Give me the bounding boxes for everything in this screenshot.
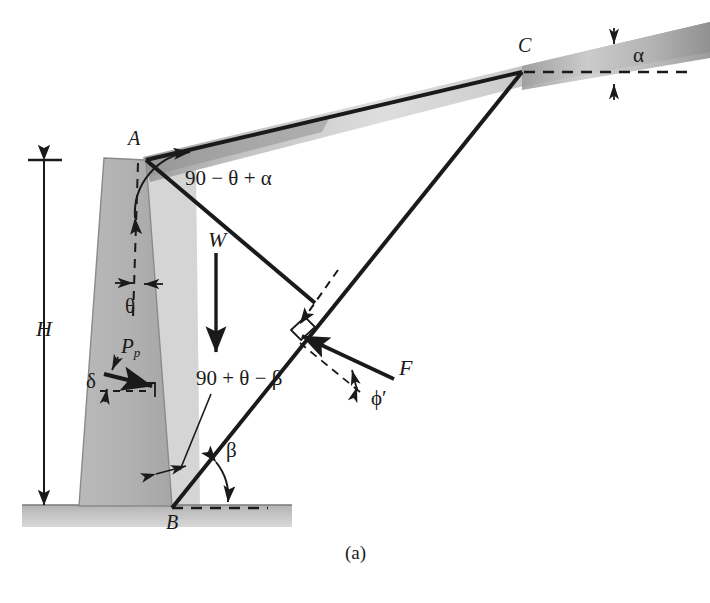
figure-caption: (a) xyxy=(345,543,366,562)
passive-pressure-subscript: p xyxy=(134,345,141,360)
point-label-a: A xyxy=(128,128,140,148)
beta-label: β xyxy=(226,440,237,461)
alpha-label: α xyxy=(633,45,644,66)
phi-prime-label: ϕ′ xyxy=(371,388,387,409)
reaction-force-label: F xyxy=(399,357,412,379)
theta-label: θ xyxy=(125,296,135,317)
point-label-c: C xyxy=(518,35,531,55)
delta-label: δ xyxy=(86,371,96,392)
angle-label-at-b: 90 + θ − β xyxy=(196,368,282,389)
height-label: H xyxy=(36,318,52,340)
angle-label-at-a: 90 − θ + α xyxy=(185,168,272,189)
weight-label: W xyxy=(208,229,226,251)
retaining-wall-diagram xyxy=(0,0,710,603)
passive-pressure-label: Pp xyxy=(121,336,140,359)
point-label-b: B xyxy=(166,512,178,532)
passive-pressure-symbol: P xyxy=(121,334,134,358)
